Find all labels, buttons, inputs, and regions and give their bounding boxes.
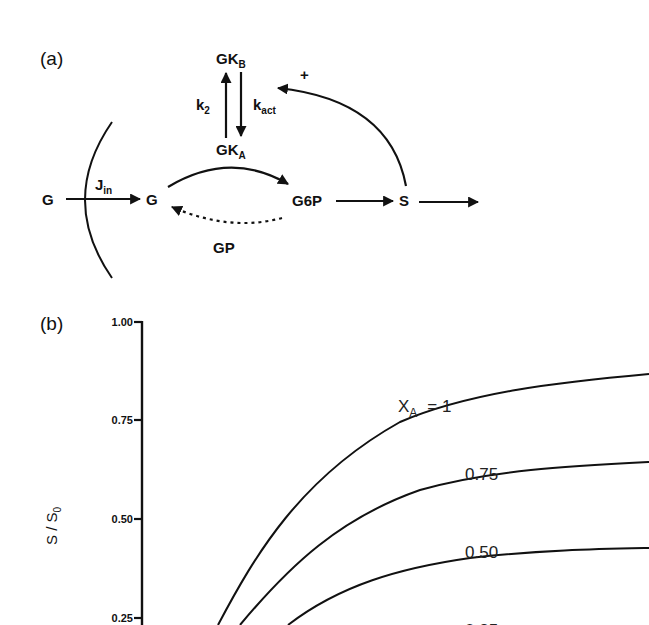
curve-label-075: 0.75 [465,465,498,484]
panel-a-label: (a) [40,48,63,69]
curve-label-xa-1: XA= 1 [398,397,451,420]
panel-a-diagram: (a) G Jin G GP G6P S + GKB k2 kact GKA [40,48,478,278]
panel-b-chart: (b) 1.00 0.75 0.50 0.25 S / S0 XA= 1 0.7… [40,313,649,625]
gk-reaction-arrow [168,168,288,187]
y-tick-label: 1.00 [112,316,133,328]
gp-reaction-arrow [172,207,282,223]
y-tick-label: 0.75 [112,414,133,426]
curve-label-025: 0.25 [465,621,498,625]
node-g-outside: G [42,191,54,208]
figure-canvas: (a) G Jin G GP G6P S + GKB k2 kact GKA [0,0,649,625]
y-tick-label: 0.50 [112,513,133,525]
y-axis-label: S / S0 [43,506,63,545]
node-s: S [399,192,409,209]
node-g6p: G6P [292,192,322,209]
node-g-inside: G [146,191,158,208]
feedback-arrow [278,88,406,186]
k2-label: k2 [196,96,210,116]
feedback-plus-sign: + [300,66,309,83]
curve-xa-075 [240,462,649,625]
curve-label-050: 0.50 [465,543,498,562]
y-tick-label: 0.25 [112,612,133,624]
node-gp: GP [213,239,235,256]
jin-label: Jin [95,176,112,196]
node-gk-a: GKA [216,141,246,161]
panel-b-label: (b) [40,313,63,334]
node-gk-b: GKB [216,50,246,70]
kact-label: kact [253,96,276,116]
